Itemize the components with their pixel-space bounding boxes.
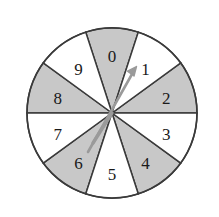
- sector-label-0: 0: [108, 47, 117, 66]
- sector-label-2: 2: [162, 89, 171, 108]
- sector-label-6: 6: [74, 154, 83, 173]
- sector-label-1: 1: [141, 60, 150, 79]
- spinner-figure: 0 1 2 3 4 5 6 7 8 9: [0, 0, 219, 217]
- sector-label-5: 5: [108, 165, 117, 184]
- sector-label-4: 4: [141, 154, 150, 173]
- sector-label-3: 3: [162, 125, 171, 144]
- sector-label-8: 8: [54, 89, 63, 108]
- sector-label-9: 9: [74, 60, 83, 79]
- sector-label-7: 7: [54, 125, 63, 144]
- spinner-diagram: 0 1 2 3 4 5 6 7 8 9: [0, 0, 219, 217]
